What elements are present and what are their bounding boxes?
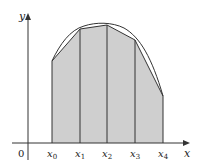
partition-labels: x0 x1 x2 x3 x4 — [47, 148, 169, 161]
x-axis-arrow-icon — [183, 140, 190, 146]
x-axis-label: x — [184, 147, 191, 160]
trapezoid-diagram: y x 0 x0 x1 x2 x3 x4 — [0, 0, 199, 167]
y-axis-arrow-icon — [25, 13, 31, 20]
x0-label: x0 — [47, 148, 57, 161]
x4-label: x4 — [158, 148, 169, 161]
x2-label: x2 — [102, 148, 112, 161]
x1-label: x1 — [75, 148, 85, 161]
x3-label: x3 — [130, 148, 140, 161]
y-axis-label: y — [18, 10, 26, 23]
origin-label: 0 — [18, 148, 24, 159]
